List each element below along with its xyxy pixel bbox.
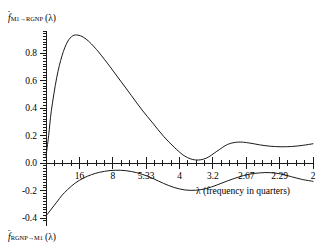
y-tick-label: -0.2: [22, 186, 37, 196]
series-arg-top: (λ): [45, 13, 56, 23]
f-hat-symbol-bottom: ̂f: [8, 232, 11, 242]
y-tick-label: 0.6: [25, 76, 37, 86]
y-tick-label: 0.0: [25, 158, 37, 168]
y-tick-labels-group: 0.80.60.40.20.0-0.2-0.4: [22, 48, 37, 223]
chart-container: 0.80.60.40.20.0-0.2-0.4 1685.3343.22.672…: [0, 0, 326, 252]
series-label-m1-to-rgnp: ̂fM1→RGNP(λ): [8, 13, 56, 23]
series-arg-bottom: (λ): [45, 232, 56, 242]
x-tick-label: 16: [75, 171, 85, 181]
series-label-rgnp-to-m1: ̂fRGNP→M1(λ): [8, 232, 56, 242]
f-hat-symbol-top: ̂f: [8, 13, 11, 23]
y-tick-label: 0.2: [25, 131, 37, 141]
y-tick-label: 0.4: [25, 103, 37, 113]
frequency-domain-causality-chart: 0.80.60.40.20.0-0.2-0.4 1685.3343.22.672…: [0, 0, 326, 252]
x-tick-label: 2.67: [238, 171, 255, 181]
series-subscript-top: M1→RGNP: [11, 15, 43, 22]
series-subscript-bottom: RGNP→M1: [11, 234, 43, 241]
x-tick-label: 5.33: [138, 171, 155, 181]
x-tick-labels-group: 1685.3343.22.672.292: [75, 171, 316, 181]
x-tick-label: 8: [110, 171, 115, 181]
x-tick-label: 4: [177, 171, 182, 181]
x-tick-label: 2: [311, 171, 316, 181]
x-tick-label: 2.29: [271, 171, 288, 181]
x-tick-label: 3.2: [207, 171, 219, 181]
x-axis-title: λ (frequency in quarters): [196, 186, 290, 196]
y-tick-label: 0.8: [25, 48, 37, 58]
curve-m1-to-rgnp: [46, 35, 313, 160]
axes-group: [46, 31, 313, 226]
y-tick-label: -0.4: [22, 213, 37, 223]
